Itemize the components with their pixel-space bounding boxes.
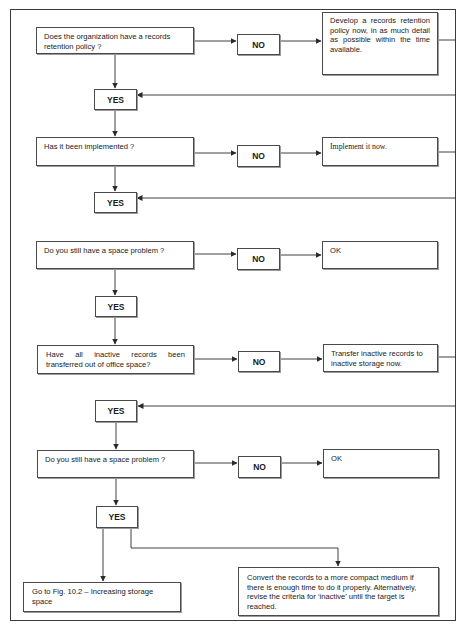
yes-label-2: YES — [107, 198, 124, 208]
action-text-3: OK — [330, 246, 341, 255]
action-box-4: Transfer inactive records to inactive st… — [323, 344, 438, 372]
yes-label-5: YES — [108, 512, 125, 522]
yes-box-1: YES — [94, 89, 137, 110]
question-text-1: Does the organization have a records ret… — [44, 32, 170, 51]
question-box-5: Do you still have a space problem ? — [37, 450, 194, 478]
goto-fig-text: Go to Fig. 10.2 – Increasing storage spa… — [32, 587, 153, 606]
yes-box-5: YES — [96, 506, 138, 528]
action-text-4: Transfer inactive records to inactive st… — [331, 349, 423, 368]
yes-label-3: YES — [107, 302, 124, 312]
convert-records-box: Convert the records to a more compact me… — [238, 567, 439, 616]
question-box-3: Do you still have a space problem ? — [36, 241, 194, 269]
question-text-4: Have all inactive records been transferr… — [46, 350, 185, 369]
connector-lines — [0, 0, 466, 629]
no-box-1: NO — [237, 34, 280, 55]
no-box-4: NO — [238, 351, 280, 372]
action-text-2: Implement it now. — [330, 142, 387, 151]
question-box-1: Does the organization have a records ret… — [36, 27, 194, 54]
no-box-3: NO — [237, 248, 280, 270]
no-label-1: NO — [252, 40, 265, 50]
no-label-4: NO — [253, 357, 266, 367]
no-label-5: NO — [253, 462, 266, 472]
no-label-3: NO — [252, 254, 265, 264]
action-text-1: Develop a records retention policy now, … — [330, 16, 430, 54]
question-text-2: Has it been implemented ? — [44, 142, 134, 151]
action-box-1: Develop a records retention policy now, … — [322, 12, 438, 75]
yes-label-4: YES — [107, 406, 124, 416]
convert-records-text: Convert the records to a more compact me… — [247, 573, 416, 611]
yes-label-1: YES — [107, 95, 124, 105]
action-box-2: Implement it now. — [322, 137, 438, 166]
goto-fig-box: Go to Fig. 10.2 – Increasing storage spa… — [23, 582, 181, 612]
no-box-5: NO — [238, 456, 281, 478]
no-label-2: NO — [252, 151, 265, 161]
question-box-4: Have all inactive records been transferr… — [37, 345, 194, 374]
yes-box-3: YES — [95, 296, 137, 317]
yes-box-2: YES — [94, 192, 137, 213]
question-text-5: Do you still have a space problem ? — [45, 455, 165, 464]
question-box-2: Has it been implemented ? — [36, 137, 194, 166]
yes-box-4: YES — [95, 400, 137, 422]
action-box-5: OK — [323, 449, 439, 478]
action-box-3: OK — [322, 241, 438, 269]
question-text-3: Do you still have a space problem ? — [44, 246, 164, 255]
no-box-2: NO — [237, 145, 280, 167]
action-text-5: OK — [331, 454, 342, 463]
